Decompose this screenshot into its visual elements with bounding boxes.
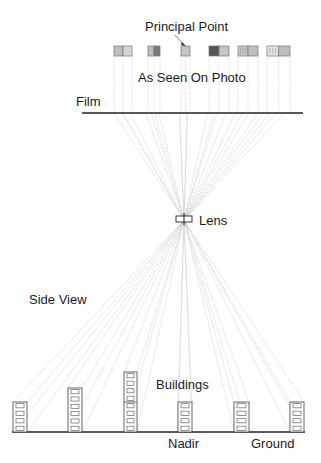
window	[237, 426, 246, 430]
photo-thumbnail	[148, 46, 160, 56]
window	[181, 404, 189, 408]
window	[127, 381, 134, 385]
window	[16, 404, 24, 408]
building	[234, 402, 249, 432]
window	[71, 419, 79, 423]
aerial-photo-relief-displacement-diagram: Principal Point As Seen On Photo Film Le…	[0, 0, 321, 463]
nadir-label: Nadir	[168, 436, 200, 451]
window	[127, 396, 134, 400]
window	[16, 419, 24, 423]
vertical-projection-lines	[114, 57, 290, 113]
building	[13, 402, 27, 432]
window	[16, 411, 24, 415]
window	[71, 412, 79, 416]
window	[181, 426, 189, 430]
window	[127, 411, 134, 415]
film-label: Film	[76, 94, 101, 109]
ground-label: Ground	[251, 436, 294, 451]
side-view-label: Side View	[29, 292, 87, 307]
window	[127, 374, 134, 378]
window	[127, 389, 134, 393]
photo-thumbnail	[181, 46, 190, 56]
photo-thumbnail	[267, 46, 290, 56]
building	[68, 388, 82, 432]
lens-label: Lens	[199, 213, 228, 228]
building	[124, 372, 137, 432]
window	[293, 426, 301, 430]
window	[237, 419, 246, 423]
window	[237, 411, 246, 415]
window	[127, 404, 134, 408]
photo-thumbnail	[238, 46, 258, 56]
building	[290, 402, 304, 432]
principal-point-label: Principal Point	[145, 19, 228, 34]
building	[178, 402, 192, 432]
window	[71, 397, 79, 401]
as-seen-on-photo-label: As Seen On Photo	[138, 70, 246, 85]
window	[71, 404, 79, 408]
window	[293, 411, 301, 415]
window	[71, 426, 79, 430]
window	[237, 404, 246, 408]
photo-thumbnail	[114, 46, 132, 56]
photo-thumbnails	[114, 46, 290, 56]
buildings-label: Buildings	[156, 377, 209, 392]
window	[293, 404, 301, 408]
photo-thumbnail	[209, 46, 229, 56]
window	[16, 426, 24, 430]
window	[127, 419, 134, 423]
window	[293, 419, 301, 423]
window	[127, 426, 134, 430]
window	[181, 419, 189, 423]
window	[181, 411, 189, 415]
window	[71, 390, 79, 394]
